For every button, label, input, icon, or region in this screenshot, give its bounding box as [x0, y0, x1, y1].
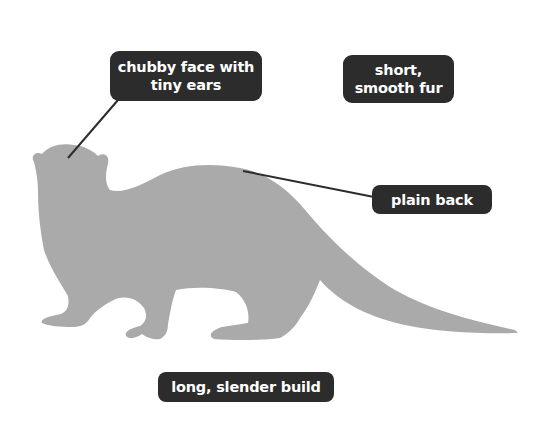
- label-back-text: plain back: [391, 191, 473, 209]
- label-face-line2: tiny ears: [151, 76, 221, 94]
- label-fur-line2: smooth fur: [355, 79, 443, 97]
- leader-line-face: [68, 100, 118, 158]
- label-face-line1: chubby face with: [118, 58, 255, 76]
- label-fur-line1: short,: [375, 61, 422, 79]
- label-slender-build: long, slender build: [158, 372, 334, 402]
- label-plain-back: plain back: [372, 185, 492, 214]
- label-short-fur: short, smooth fur: [343, 55, 454, 103]
- label-chubby-face: chubby face with tiny ears: [110, 51, 262, 101]
- otter-silhouette: [33, 144, 518, 340]
- label-build-text: long, slender build: [171, 378, 321, 396]
